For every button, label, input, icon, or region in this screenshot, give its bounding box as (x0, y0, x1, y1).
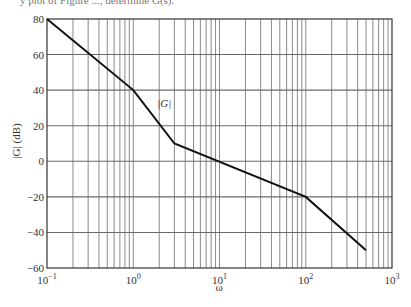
y-tick-label: −40 (27, 226, 45, 238)
bode-magnitude-chart: 806040200−20−40−60 10−1100101102103 |G| … (0, 0, 411, 307)
x-tick-label: 100 (126, 272, 141, 286)
y-axis-ticks: 806040200−20−40−60 (27, 13, 45, 274)
y-tick-label: 80 (33, 13, 45, 25)
x-tick-label: 10−1 (37, 272, 57, 286)
x-axis-label: ω (215, 281, 222, 293)
grid-lines (47, 19, 392, 268)
y-tick-label: −20 (27, 191, 45, 203)
x-tick-label: 102 (298, 272, 313, 286)
y-tick-label: 40 (33, 84, 45, 96)
series-label: |G| (157, 97, 171, 109)
y-tick-label: 0 (39, 155, 45, 167)
x-tick-label: 103 (385, 272, 400, 286)
y-axis-label: |G| (dB) (10, 123, 23, 159)
y-tick-label: 20 (33, 120, 45, 132)
y-tick-label: −60 (27, 262, 45, 274)
y-tick-label: 60 (33, 49, 45, 61)
